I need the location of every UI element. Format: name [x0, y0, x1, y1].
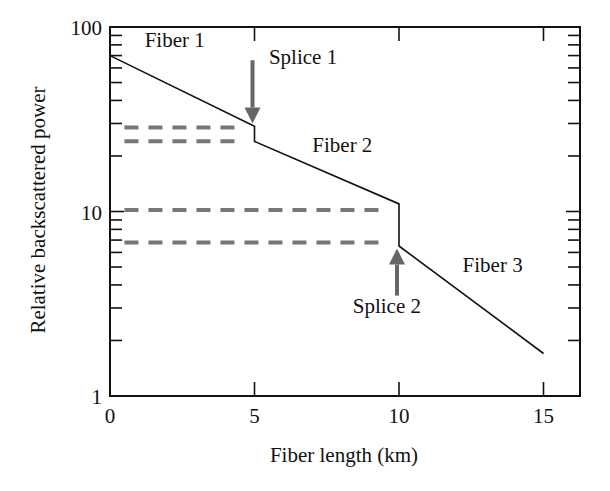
x-tick-label: 10: [389, 404, 410, 428]
y-tick-label: 10: [81, 201, 102, 225]
fiber-backscatter-chart: 051015110100 Fiber 1Splice 1Fiber 2Fiber…: [0, 0, 610, 491]
annotation-label: Fiber 3: [463, 253, 523, 277]
annotation-label: Splice 2: [353, 294, 421, 318]
x-tick-label: 0: [105, 404, 116, 428]
y-tick-label: 1: [92, 385, 103, 409]
x-tick-label: 5: [249, 404, 260, 428]
annotations: Fiber 1Splice 1Fiber 2Fiber 3Splice 2: [145, 28, 523, 319]
annotation-label: Fiber 2: [312, 133, 372, 157]
annotation-label: Splice 1: [269, 45, 337, 69]
annotation-label: Fiber 1: [145, 28, 205, 52]
x-tick-label: 15: [533, 404, 554, 428]
y-axis-label: Relative backscattered power: [26, 86, 50, 333]
y-tick-label: 100: [71, 16, 103, 40]
backscatter-trace: [110, 56, 544, 354]
splice-arrows: [245, 60, 406, 295]
axis-ticks: 051015110100: [71, 16, 581, 428]
arrow-head-icon: [389, 249, 405, 265]
arrow-head-icon: [245, 107, 261, 123]
trace-line: [110, 56, 544, 354]
x-axis-label: Fiber length (km): [270, 443, 418, 467]
